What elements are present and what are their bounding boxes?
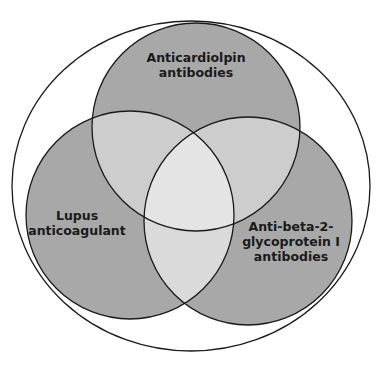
- label-line: Anti-beta-2-: [242, 219, 340, 234]
- label-line: antibodies: [146, 65, 245, 80]
- label-anticardiolipin: Anticardiolpin antibodies: [146, 50, 245, 80]
- label-anti-beta2-glycoprotein: Anti-beta-2- glycoprotein I antibodies: [242, 219, 340, 264]
- label-line: Lupus: [28, 208, 125, 223]
- label-line: Anticardiolpin: [146, 50, 245, 65]
- label-line: glycoprotein I: [242, 234, 340, 249]
- venn-diagram: Anticardiolpin antibodies Lupus anticoag…: [0, 0, 383, 366]
- label-line: antibodies: [242, 249, 340, 264]
- label-line: anticoagulant: [28, 223, 125, 238]
- label-lupus-anticoagulant: Lupus anticoagulant: [28, 208, 125, 238]
